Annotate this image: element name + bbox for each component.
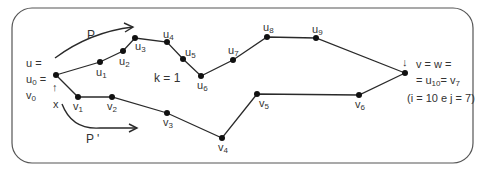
start-label-line1: u = bbox=[26, 58, 42, 69]
label-u7: u7 bbox=[228, 45, 239, 58]
label-u2: u2 bbox=[119, 56, 130, 69]
diagram-frame bbox=[12, 8, 473, 163]
x-label: x bbox=[53, 99, 59, 110]
node-u1 bbox=[97, 59, 103, 65]
start-label-line2: u0 = bbox=[26, 74, 46, 87]
label-u9: u9 bbox=[312, 24, 323, 37]
label-v2: v2 bbox=[107, 101, 117, 114]
path-p-prime-label: P ' bbox=[86, 133, 99, 145]
label-u6: u6 bbox=[197, 80, 208, 93]
path-p-label: P bbox=[87, 29, 95, 41]
start-label-line2-suffix: = bbox=[37, 73, 46, 85]
label-v4: v4 bbox=[218, 142, 228, 155]
label-u1: u1 bbox=[96, 67, 107, 80]
label-v3: v3 bbox=[163, 117, 173, 130]
label-v6: v6 bbox=[355, 99, 365, 112]
label-u4: u4 bbox=[163, 29, 174, 42]
label-v5: v5 bbox=[259, 98, 269, 111]
node-u2 bbox=[120, 48, 126, 54]
start-up-arrow-icon: ↑ bbox=[52, 82, 58, 93]
end-label-line3: (i = 10 e j = 7) bbox=[407, 93, 475, 104]
label-u8: u8 bbox=[263, 22, 274, 35]
start-label-line3-sub: 0 bbox=[32, 94, 36, 103]
node-u0 bbox=[53, 72, 59, 78]
end-label-line2: = u10= v7 bbox=[416, 75, 460, 88]
label-u3: u3 bbox=[135, 41, 146, 54]
graph-diagram bbox=[0, 0, 483, 170]
node-u10 bbox=[402, 70, 408, 76]
end-label-line1: v = w = bbox=[416, 59, 451, 70]
k-label: k = 1 bbox=[154, 72, 180, 84]
label-v1: v1 bbox=[73, 101, 83, 114]
end-down-arrow-icon: ↓ bbox=[402, 57, 408, 68]
label-u5: u5 bbox=[185, 47, 196, 60]
start-label-line3: v0 bbox=[26, 90, 36, 103]
